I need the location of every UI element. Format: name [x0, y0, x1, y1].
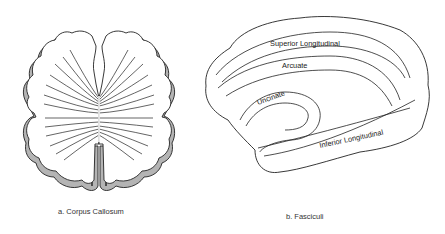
label-arcuate: Arcuate [282, 61, 307, 70]
panel-corpus-callosum: a. Corpus Callosum [0, 0, 200, 234]
panel-fasciculi: Superior Longitudinal Arcuate Uncinate I… [200, 0, 445, 234]
corpus-callosum-diagram [0, 0, 200, 234]
caption-corpus-callosum: a. Corpus Callosum [58, 207, 124, 216]
fasciculi-diagram: Superior Longitudinal Arcuate Uncinate I… [200, 0, 445, 234]
brain-fiber-figure: a. Corpus Callosum Superior Longitudinal… [0, 0, 445, 234]
caption-fasciculi: b. Fasciculi [286, 212, 324, 221]
label-superior-longitudinal: Superior Longitudinal [270, 39, 340, 48]
